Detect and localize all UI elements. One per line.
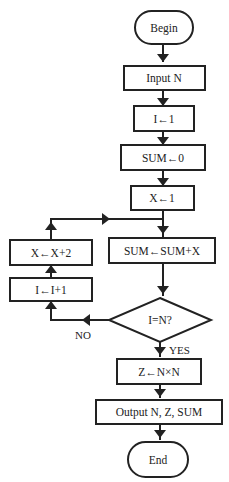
node-inc-i: I←I+1 [10, 278, 92, 301]
node-label: Output N, Z, SUM [116, 406, 203, 419]
node-label: SUM←0 [142, 152, 184, 164]
arrow-up-icon [45, 222, 57, 230]
node-init-i: I←1 [134, 106, 194, 131]
arrow-down-icon [157, 226, 169, 234]
node-square: Z←N×N [117, 359, 201, 384]
node-begin: Begin [135, 11, 193, 44]
node-end: End [128, 442, 188, 477]
node-label: Input N [146, 72, 182, 85]
arrow-down-icon [157, 54, 169, 62]
arrow-down-icon [157, 178, 169, 186]
node-output: Output N, Z, SUM [96, 400, 222, 424]
node-init-sum: SUM←0 [121, 145, 205, 170]
edge-label-yes: YES [169, 344, 190, 356]
edge-label-no: NO [75, 329, 91, 341]
node-input: Input N [124, 66, 205, 90]
node-label: Begin [150, 22, 178, 35]
arrow-down-icon [154, 389, 166, 397]
arrow-up-icon [45, 301, 57, 309]
arrow-down-icon [154, 347, 166, 355]
arrow-down-icon [157, 286, 169, 294]
node-label: I←1 [153, 113, 174, 125]
node-decision: I=N? [109, 298, 211, 342]
node-label: I←I+1 [35, 284, 67, 296]
node-label: End [149, 454, 168, 466]
arrow-down-icon [157, 137, 169, 145]
node-inc-x: X←X+2 [10, 240, 92, 265]
node-accumulate: SUM←SUM+X [109, 238, 215, 263]
arrow-down-icon [154, 430, 166, 438]
arrow-left-icon [82, 314, 90, 326]
node-init-x: X←1 [131, 186, 194, 210]
flowchart: Begin Input N I←1 SUM←0 X←1 SUM←SUM+X X←… [0, 0, 229, 482]
node-label: SUM←SUM+X [124, 245, 201, 257]
arrow-right-icon [102, 213, 110, 225]
arrow-up-icon [45, 265, 57, 273]
node-label: I=N? [148, 314, 172, 326]
arrow-down-icon [157, 98, 169, 106]
node-label: X←X+2 [31, 247, 72, 259]
node-label: Z←N×N [138, 366, 180, 378]
node-label: X←1 [149, 192, 175, 204]
